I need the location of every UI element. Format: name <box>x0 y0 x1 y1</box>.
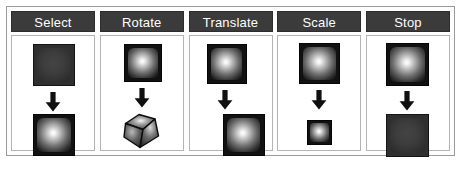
cube-highlighted-icon <box>33 114 75 156</box>
cube-highlighted-icon <box>386 43 429 86</box>
figure-frame: Select Rotate <box>6 6 455 156</box>
cube-rotated-icon <box>122 112 162 150</box>
panel-header-select[interactable]: Select <box>11 11 95 32</box>
panel-body-rotate <box>100 35 184 151</box>
arrow-down-icon <box>44 92 62 112</box>
cube-highlighted-icon <box>124 44 162 82</box>
mode-panel-rotate[interactable]: Rotate <box>100 11 184 151</box>
cube-highlighted-icon <box>299 43 340 84</box>
panel-body-select <box>11 35 95 151</box>
mode-panel-stop[interactable]: Stop <box>366 11 450 151</box>
panel-header-translate[interactable]: Translate <box>189 11 273 32</box>
panel-header-scale[interactable]: Scale <box>277 11 361 32</box>
cube-highlighted-icon <box>207 44 247 84</box>
cube-unselected-icon <box>33 44 75 86</box>
mode-panel-scale[interactable]: Scale <box>277 11 361 151</box>
cube-unselected-icon <box>386 114 429 157</box>
panel-header-rotate[interactable]: Rotate <box>100 11 184 32</box>
cube-translated-icon <box>223 114 265 156</box>
mode-panel-translate[interactable]: Translate <box>189 11 273 151</box>
panel-header-stop[interactable]: Stop <box>366 11 450 32</box>
mode-panel-select[interactable]: Select <box>11 11 95 151</box>
cube-scaled-down-icon <box>307 120 332 145</box>
panel-body-scale <box>277 35 361 151</box>
mode-panel-row: Select Rotate <box>11 11 450 151</box>
arrow-down-icon <box>133 88 151 108</box>
panel-body-translate <box>189 35 273 151</box>
arrow-down-icon <box>398 91 416 111</box>
arrow-down-icon <box>310 90 328 110</box>
arrow-down-icon <box>216 90 234 110</box>
panel-body-stop <box>366 35 450 151</box>
